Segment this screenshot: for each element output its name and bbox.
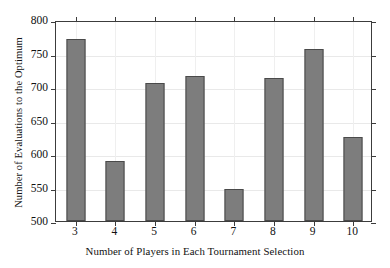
bar	[225, 189, 244, 221]
y-axis-tick	[51, 223, 56, 224]
y-axis-tick	[51, 190, 56, 191]
y-axis-tick-right	[371, 223, 376, 224]
bar	[264, 78, 283, 221]
y-axis-tick-label: 650	[31, 116, 48, 128]
y-gridline	[56, 190, 371, 191]
y-gridline	[56, 123, 371, 124]
x-axis-tick-label: 6	[191, 225, 197, 237]
y-axis-tick	[51, 89, 56, 90]
x-axis-tick-label: 4	[112, 225, 118, 237]
y-axis-tick-right	[371, 22, 376, 23]
y-axis-tick-labels: 500550600650700750800	[0, 0, 52, 268]
y-axis-tick	[51, 22, 56, 23]
x-axis-tick-top	[234, 17, 235, 22]
x-axis-tick-label: 3	[72, 225, 78, 237]
bar	[106, 161, 125, 221]
y-axis-tick-label: 500	[31, 216, 48, 228]
plot-area	[55, 21, 372, 222]
y-axis-tick	[51, 123, 56, 124]
x-axis-tick-top	[115, 17, 116, 22]
bar	[304, 49, 323, 221]
y-axis-tick-right	[371, 156, 376, 157]
x-axis-tick-label: 10	[346, 225, 358, 237]
y-axis-tick-label: 600	[31, 149, 48, 161]
x-axis-tick-top	[274, 17, 275, 22]
y-gridline	[56, 156, 371, 157]
x-axis-tick-label: 9	[310, 225, 316, 237]
y-axis-tick-label: 800	[31, 15, 48, 27]
x-axis-tick-labels: 345678910	[55, 225, 372, 241]
x-axis-tick-label: 7	[230, 225, 236, 237]
y-axis-tick-right	[371, 56, 376, 57]
y-axis-tick-right	[371, 190, 376, 191]
bar	[66, 39, 85, 221]
x-axis-tick-label: 5	[151, 225, 157, 237]
y-axis-tick	[51, 156, 56, 157]
bar	[146, 83, 165, 221]
x-axis-tick-top	[76, 17, 77, 22]
x-axis-tick-label: 8	[270, 225, 276, 237]
y-axis-tick-right	[371, 89, 376, 90]
x-axis-tick-top	[155, 17, 156, 22]
x-axis-tick-top	[314, 17, 315, 22]
y-axis-tick-label: 550	[31, 183, 48, 195]
y-axis-tick-label: 750	[31, 49, 48, 61]
bar	[344, 137, 363, 221]
bar	[185, 76, 204, 221]
x-axis-title: Number of Players in Each Tournament Sel…	[0, 245, 390, 257]
y-axis-tick	[51, 56, 56, 57]
y-gridline	[56, 56, 371, 57]
y-gridline	[56, 89, 371, 90]
x-axis-tick-top	[353, 17, 354, 22]
y-axis-tick-right	[371, 123, 376, 124]
x-axis-tick-top	[195, 17, 196, 22]
bar-chart-figure: Number of Evaluations to the Optimum 500…	[0, 0, 390, 268]
y-axis-tick-label: 700	[31, 82, 48, 94]
